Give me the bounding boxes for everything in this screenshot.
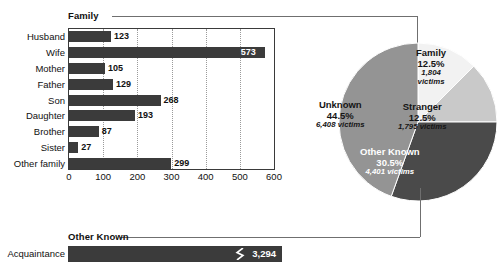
bar-value-label: 27 (81, 142, 91, 153)
bar (69, 126, 99, 137)
acquaintance-bar-value: 3,294 (252, 247, 276, 261)
other-known-bracket-horizontal (120, 237, 420, 238)
pie-slice-label: Unknown44.5%6,408 victims (316, 100, 365, 130)
bar-category-label: Sister (0, 142, 65, 153)
family-bar-chart-plot: 1235731051292681938727299 (68, 28, 275, 170)
bar-category-label: Son (0, 95, 65, 106)
bar-category-label: Brother (0, 126, 65, 137)
x-tick-label: 600 (266, 171, 282, 182)
bar-value-label: 87 (102, 126, 112, 137)
family-section-label: Family (68, 10, 99, 21)
relationship-pie-chart: Family12.5%1,804victimsStranger12.5%1,79… (338, 42, 498, 202)
pie-slice-label: Family12.5%1,804victims (416, 48, 446, 87)
family-category-labels: HusbandWifeMotherFatherSonDaughterBrothe… (0, 28, 65, 170)
bar (69, 158, 171, 169)
bar-category-label: Daughter (0, 110, 65, 121)
x-tick-label: 200 (129, 171, 145, 182)
acquaintance-bar (69, 247, 281, 261)
bar-category-label: Other family (0, 158, 65, 169)
pie-slice-label: Other Known30.5%4,401 victims (360, 147, 420, 177)
bar (69, 63, 105, 74)
pie-slice-victims: 6,408 victims (316, 121, 365, 130)
x-tick-label: 500 (232, 171, 248, 182)
pie-slice-victims: 1,795 victims (398, 123, 447, 132)
bar-value-label: 123 (114, 31, 129, 42)
x-tick-label: 300 (164, 171, 180, 182)
other-known-section-label: Other Known (68, 231, 129, 242)
bar-category-label: Wife (0, 47, 65, 58)
bar (69, 47, 265, 58)
bar (69, 142, 78, 153)
acquaintance-bar-track: 3,294 (68, 246, 282, 262)
bar-value-label: 129 (116, 79, 131, 90)
other-known-bracket-vertical (420, 188, 421, 237)
x-tick-label: 100 (95, 171, 111, 182)
pie-slice-victims: 1,804victims (416, 69, 446, 86)
bar-category-label: Mother (0, 63, 65, 74)
axis-break-icon (235, 248, 245, 260)
bar (69, 79, 113, 90)
x-tick-label: 400 (198, 171, 214, 182)
pie-slice-victims: 4,401 victims (360, 168, 420, 177)
bar-category-label: Husband (0, 31, 65, 42)
bar-value-label: 268 (164, 95, 179, 106)
bar-value-label: 105 (108, 63, 123, 74)
family-x-axis: 0100200300400500600 (68, 171, 275, 185)
family-bracket-horizontal (112, 16, 418, 17)
bar (69, 31, 111, 42)
bar-value-label: 299 (174, 158, 189, 169)
acquaintance-category-label: Acquaintance (0, 248, 65, 260)
bar-value-label: 573 (241, 47, 256, 58)
pie-slice-label: Stranger12.5%1,795 victims (398, 102, 447, 132)
x-tick-label: 0 (66, 171, 71, 182)
bar-value-label: 193 (138, 110, 153, 121)
bar (69, 110, 135, 121)
bar-category-label: Father (0, 79, 65, 90)
bar (69, 95, 161, 106)
